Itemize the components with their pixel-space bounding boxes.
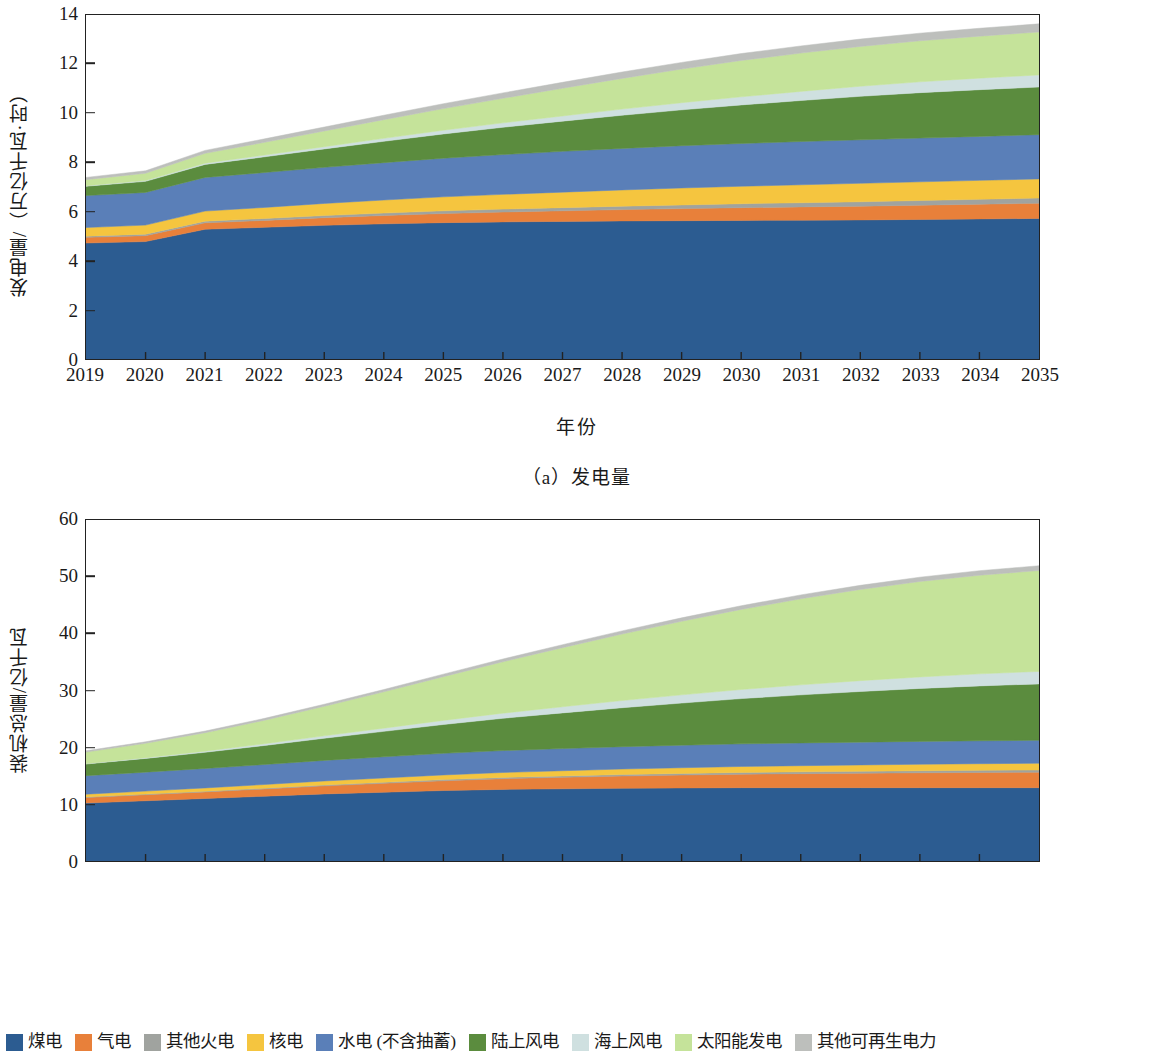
- x-tick-label: 2022: [245, 364, 283, 386]
- plot-frame-a: [85, 14, 1040, 360]
- legend-item[interactable]: 其他火电: [144, 1033, 234, 1051]
- plot-frame-b: [85, 519, 1040, 862]
- x-tick-label: 2020: [126, 364, 164, 386]
- legend-swatch-icon: [469, 1034, 486, 1051]
- legend-item[interactable]: 其他可再生电力: [795, 1033, 936, 1051]
- x-tick-label: 2019: [66, 364, 104, 386]
- y-tick-mark: [85, 804, 95, 806]
- figure-root: 发电量/（万亿千瓦·时） 02468101214 201920202021202…: [0, 0, 1153, 1056]
- y-tick-mark: [85, 310, 95, 312]
- legend-label: 核电: [269, 1033, 303, 1051]
- legend: 煤电气电其他火电核电水电 (不含抽蓄)陆上风电海上风电太阳能发电其他可再生电力: [0, 1028, 1153, 1056]
- x-tick-label: 2029: [663, 364, 701, 386]
- legend-label: 气电: [97, 1033, 131, 1051]
- y-tick-mark: [85, 575, 95, 577]
- y-tick-labels-a: 02468101214: [38, 0, 78, 400]
- y-tick-label: 8: [69, 151, 79, 173]
- y-tick-label: 40: [59, 622, 78, 644]
- legend-swatch-icon: [6, 1034, 23, 1051]
- y-tick-label: 30: [59, 680, 78, 702]
- y-tick-label: 60: [59, 508, 78, 530]
- plot-area-a: [85, 14, 1040, 360]
- y-tick-label: 10: [59, 794, 78, 816]
- y-tick-label: 12: [59, 52, 78, 74]
- x-tick-label: 2027: [544, 364, 582, 386]
- x-tick-labels-a: 2019202020212022202320242025202620272028…: [0, 364, 1153, 390]
- y-tick-label: 14: [59, 3, 78, 25]
- x-tick-label: 2028: [603, 364, 641, 386]
- legend-item[interactable]: 海上风电: [572, 1033, 662, 1051]
- y-tick-mark: [85, 161, 95, 163]
- legend-label: 水电 (不含抽蓄): [338, 1033, 456, 1051]
- legend-item[interactable]: 煤电: [6, 1033, 62, 1051]
- area-series: [86, 788, 1039, 861]
- x-tick-label: 2025: [424, 364, 462, 386]
- y-tick-mark: [85, 112, 95, 114]
- caption-a: （a）发电量: [0, 462, 1153, 489]
- legend-label: 太阳能发电: [697, 1033, 782, 1051]
- x-tick-label: 2030: [723, 364, 761, 386]
- legend-swatch-icon: [675, 1034, 692, 1051]
- x-axis-title-a: 年份: [0, 412, 1153, 439]
- y-tick-mark: [85, 260, 95, 262]
- x-tick-label: 2021: [185, 364, 223, 386]
- y-tick-label: 6: [69, 201, 79, 223]
- legend-swatch-icon: [75, 1034, 92, 1051]
- x-tick-label: 2032: [842, 364, 880, 386]
- stacked-area-svg-b: [86, 520, 1039, 861]
- legend-label: 其他火电: [166, 1033, 234, 1051]
- legend-item[interactable]: 水电 (不含抽蓄): [316, 1033, 456, 1051]
- legend-label: 海上风电: [594, 1033, 662, 1051]
- chart-panel-b: 装机总量/亿千瓦 0102030405060 20192020202120222…: [0, 505, 1153, 1010]
- y-tick-label: 10: [59, 102, 78, 124]
- y-tick-labels-b: 0102030405060: [38, 505, 78, 905]
- plot-area-b: [85, 519, 1040, 862]
- y-tick-mark: [85, 690, 95, 692]
- stacked-area-svg-a: [86, 15, 1039, 359]
- y-tick-label: 50: [59, 565, 78, 587]
- y-tick-mark: [85, 633, 95, 635]
- legend-label: 其他可再生电力: [817, 1033, 936, 1051]
- y-tick-label: 0: [69, 851, 79, 873]
- y-tick-label: 20: [59, 737, 78, 759]
- legend-swatch-icon: [247, 1034, 264, 1051]
- area-series: [86, 218, 1039, 359]
- y-tick-label: 2: [69, 300, 79, 322]
- x-tick-label: 2034: [961, 364, 999, 386]
- x-tick-label: 2026: [484, 364, 522, 386]
- y-axis-title-a: 发电量/（万亿千瓦·时）: [6, 40, 33, 340]
- x-tick-label: 2023: [305, 364, 343, 386]
- legend-item[interactable]: 陆上风电: [469, 1033, 559, 1051]
- legend-swatch-icon: [144, 1034, 161, 1051]
- legend-swatch-icon: [795, 1034, 812, 1051]
- y-axis-title-b: 装机总量/亿千瓦: [6, 555, 33, 845]
- legend-swatch-icon: [572, 1034, 589, 1051]
- x-tick-label: 2024: [364, 364, 402, 386]
- y-tick-mark: [85, 63, 95, 65]
- x-tick-label: 2033: [902, 364, 940, 386]
- legend-item[interactable]: 核电: [247, 1033, 303, 1051]
- x-tick-label: 2031: [782, 364, 820, 386]
- legend-swatch-icon: [316, 1034, 333, 1051]
- x-tick-label: 2035: [1021, 364, 1059, 386]
- legend-item[interactable]: 太阳能发电: [675, 1033, 782, 1051]
- legend-label: 陆上风电: [491, 1033, 559, 1051]
- legend-label: 煤电: [28, 1033, 62, 1051]
- y-tick-mark: [85, 747, 95, 749]
- y-tick-label: 4: [69, 250, 79, 272]
- chart-panel-a: 发电量/（万亿千瓦·时） 02468101214 201920202021202…: [0, 0, 1153, 490]
- y-tick-mark: [85, 211, 95, 213]
- legend-item[interactable]: 气电: [75, 1033, 131, 1051]
